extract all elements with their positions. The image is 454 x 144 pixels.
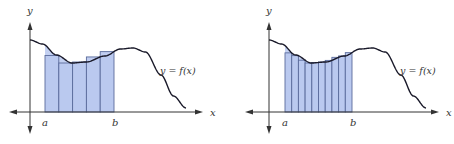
riemann-rectangle xyxy=(285,53,292,112)
panel-left: y x a b y = f(x) xyxy=(9,5,216,134)
riemann-rectangle xyxy=(319,62,326,112)
a-label: a xyxy=(282,117,288,128)
x-axis-arrow-right-icon xyxy=(431,110,439,115)
riemann-rectangle xyxy=(339,56,346,112)
riemann-rectangle xyxy=(59,63,73,112)
riemann-rectangle xyxy=(298,60,305,112)
y-axis-label: y xyxy=(265,5,272,16)
x-axis-arrow-right-icon xyxy=(195,110,203,115)
panel-right: y x a b y = f(x) xyxy=(245,5,452,134)
y-axis-label: y xyxy=(26,5,33,16)
riemann-rectangle xyxy=(45,55,59,112)
x-axis-label: x xyxy=(446,107,452,118)
x-axis-label: x xyxy=(210,107,216,118)
y-axis-arrow-down-icon xyxy=(28,126,33,134)
b-label: b xyxy=(112,117,118,128)
riemann-rectangle xyxy=(332,57,339,112)
riemann-rectangle xyxy=(292,56,299,112)
b-label: b xyxy=(350,117,356,128)
function-label: y = f(x) xyxy=(159,65,196,76)
y-axis-arrow-down-icon xyxy=(267,126,272,134)
riemann-rectangle xyxy=(325,60,332,112)
riemann-rectangle xyxy=(100,52,114,112)
riemann-rectangle xyxy=(345,53,352,112)
y-axis-arrow-up-icon xyxy=(267,22,272,30)
x-axis-arrow-left-icon xyxy=(245,110,253,115)
x-axis-arrow-left-icon xyxy=(9,110,17,115)
riemann-rectangle xyxy=(86,57,100,112)
riemann-rectangle xyxy=(73,62,87,112)
function-label: y = f(x) xyxy=(399,65,436,76)
riemann-rectangle xyxy=(305,63,312,112)
riemann-sum-diagram: y x a b y = f(x) y x a b y = f(x) xyxy=(0,0,454,144)
riemann-rectangle xyxy=(312,63,319,113)
y-axis-arrow-up-icon xyxy=(28,22,33,30)
a-label: a xyxy=(42,117,48,128)
